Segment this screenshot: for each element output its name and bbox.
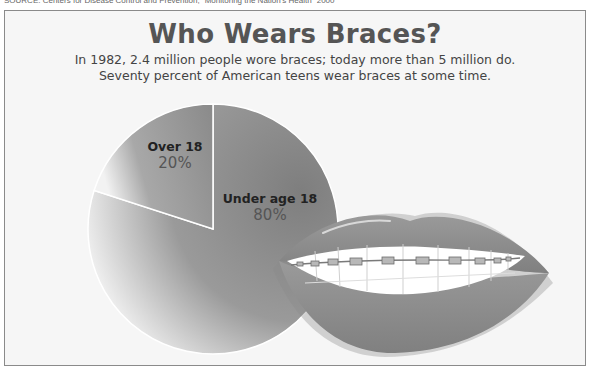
- lips-illustration: [273, 213, 553, 357]
- slice-label-under-18: Under age 18 80%: [215, 191, 325, 224]
- subtitle-line-1: In 1982, 2.4 million people wore braces;…: [5, 52, 585, 68]
- chart-frame: Who Wears Braces? In 1982, 2.4 million p…: [4, 10, 586, 366]
- slice-percent: 20%: [125, 154, 225, 172]
- slice-name: Under age 18: [215, 191, 325, 206]
- chart-subtitle: In 1982, 2.4 million people wore braces;…: [5, 52, 585, 84]
- chart-title: Who Wears Braces?: [5, 19, 585, 49]
- slice-name: Over 18: [125, 139, 225, 154]
- source-note: SOURCE: Centers for Disease Control and …: [4, 0, 334, 5]
- subtitle-line-2: Seventy percent of American teens wear b…: [5, 68, 585, 84]
- slice-label-over-18: Over 18 20%: [125, 139, 225, 172]
- slice-percent: 80%: [215, 206, 325, 224]
